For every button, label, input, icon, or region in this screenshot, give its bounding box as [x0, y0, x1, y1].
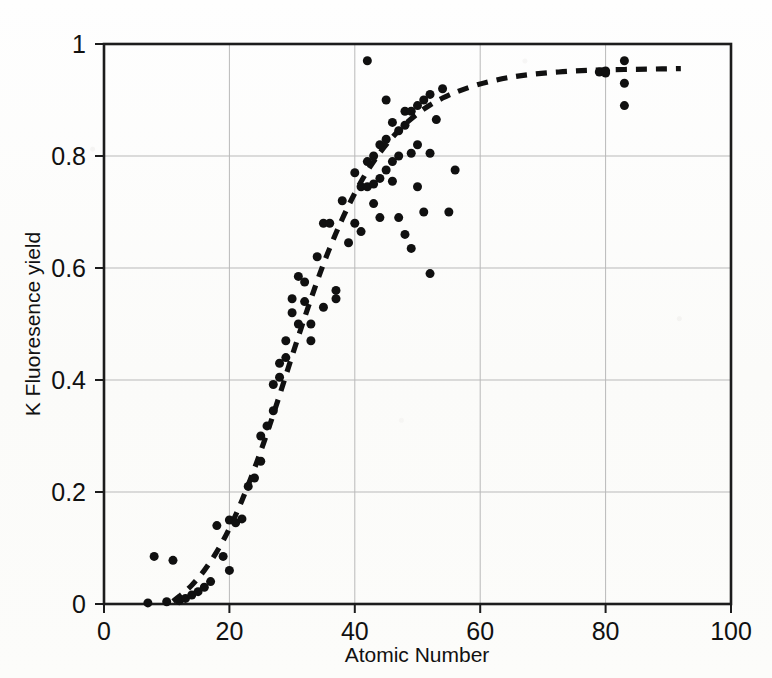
data-point: [269, 406, 278, 415]
data-point: [363, 56, 372, 65]
y-axis-title: K Fluoresence yield: [21, 232, 44, 416]
x-tick-label: 40: [341, 617, 369, 645]
data-point: [413, 140, 422, 149]
data-point: [451, 166, 460, 175]
y-tick-label: 0: [72, 590, 86, 618]
data-point: [237, 514, 246, 523]
y-tick-label: 0.6: [51, 254, 86, 282]
data-point: [306, 320, 315, 329]
data-point: [269, 380, 278, 389]
data-point: [388, 177, 397, 186]
data-point: [219, 552, 228, 561]
data-point: [331, 294, 340, 303]
x-tick-label: 100: [710, 617, 752, 645]
fitted-curve: [173, 69, 681, 602]
x-tick-label: 0: [97, 617, 111, 645]
data-point: [375, 213, 384, 222]
data-point: [419, 208, 428, 217]
data-point: [357, 227, 366, 236]
tickmarks-group: [95, 44, 731, 613]
data-point: [620, 56, 629, 65]
data-point: [407, 244, 416, 253]
data-point: [281, 353, 290, 362]
data-point: [263, 421, 272, 430]
x-tick-label: 20: [215, 617, 243, 645]
data-point: [313, 252, 322, 261]
data-point: [350, 219, 359, 228]
y-tick-label: 0.2: [51, 478, 86, 506]
data-point: [250, 474, 259, 483]
data-point: [344, 238, 353, 247]
y-tick-labels: 00.20.40.60.81: [51, 30, 86, 618]
gridlines-group: [104, 44, 731, 604]
data-point: [413, 182, 422, 191]
x-tick-labels: 020406080100: [97, 617, 752, 645]
data-point: [601, 66, 610, 75]
data-point: [162, 597, 171, 606]
data-point: [369, 152, 378, 161]
data-point: [369, 199, 378, 208]
data-point: [225, 566, 234, 575]
data-point: [400, 121, 409, 130]
data-point: [620, 79, 629, 88]
data-point: [444, 208, 453, 217]
data-point: [350, 168, 359, 177]
data-point: [143, 598, 152, 607]
data-point: [306, 336, 315, 345]
data-point: [150, 552, 159, 561]
data-point: [281, 336, 290, 345]
data-point: [300, 297, 309, 306]
data-point: [256, 432, 265, 441]
y-tick-label: 0.4: [51, 366, 86, 394]
y-tick-label: 1: [72, 30, 86, 58]
data-point: [438, 84, 447, 93]
data-point: [426, 90, 435, 99]
data-point: [407, 149, 416, 158]
data-point: [288, 294, 297, 303]
data-point: [426, 149, 435, 158]
data-point: [300, 278, 309, 287]
data-point: [394, 152, 403, 161]
data-point: [432, 115, 441, 124]
data-point: [275, 373, 284, 382]
data-point: [382, 135, 391, 144]
y-tick-label: 0.8: [51, 142, 86, 170]
data-point: [288, 308, 297, 317]
plot-frame: [104, 44, 731, 604]
x-axis-title: Atomic Number: [345, 643, 490, 666]
data-point: [168, 556, 177, 565]
data-point: [400, 230, 409, 239]
data-point: [382, 166, 391, 175]
data-point: [375, 174, 384, 183]
data-point: [325, 219, 334, 228]
data-point: [212, 521, 221, 530]
data-point: [382, 96, 391, 105]
data-point: [244, 482, 253, 491]
data-point: [338, 196, 347, 205]
data-point: [620, 101, 629, 110]
chart-canvas: 020406080100 00.20.40.60.81 Atomic Numbe…: [0, 0, 772, 678]
scatter-chart-figure: 020406080100 00.20.40.60.81 Atomic Numbe…: [0, 0, 772, 678]
data-points-group: [143, 56, 629, 607]
data-point: [319, 303, 328, 312]
x-tick-label: 60: [466, 617, 494, 645]
data-point: [331, 286, 340, 295]
data-point: [256, 457, 265, 466]
data-point: [206, 577, 215, 586]
data-point: [388, 118, 397, 127]
data-point: [394, 213, 403, 222]
data-point: [294, 320, 303, 329]
x-tick-label: 80: [592, 617, 620, 645]
data-point: [426, 269, 435, 278]
